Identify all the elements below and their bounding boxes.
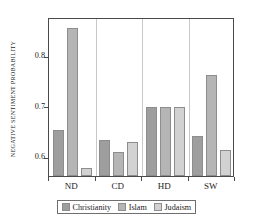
bar-sw-judaism [220, 150, 231, 176]
legend-entry-islam[interactable]: Islam [118, 203, 147, 212]
x-tick-mark [234, 177, 235, 181]
bar-sw-islam [206, 75, 217, 176]
gridline-vertical [142, 19, 143, 176]
bar-nd-judaism [81, 168, 92, 176]
gridline-vertical [189, 19, 190, 176]
bar-sw-christianity [192, 136, 203, 176]
legend-swatch-icon [154, 203, 162, 211]
y-tick-label: 0.6 [23, 152, 45, 161]
gridline-vertical [96, 19, 97, 176]
plot-area: 0.60.70.8 [48, 18, 234, 177]
y-tick-label: 0.7 [23, 102, 45, 111]
y-tick-label: 0.8 [23, 51, 45, 60]
bar-hd-judaism [174, 107, 185, 176]
legend-swatch-icon [62, 203, 70, 211]
bar-nd-islam [67, 28, 78, 176]
y-axis-title: Negative sentiment probability [10, 24, 16, 174]
legend-entry-judaism[interactable]: Judaism [154, 203, 191, 212]
bar-nd-christianity [53, 130, 64, 176]
legend-swatch-icon [118, 203, 126, 211]
legend-label: Judaism [164, 203, 191, 212]
legend-label: Christianity [73, 203, 112, 212]
bar-cd-christianity [99, 140, 110, 176]
chart-legend: ChristianityIslamJudaism [57, 200, 196, 214]
x-tick-label-nd: ND [48, 181, 95, 191]
legend-label: Islam [129, 203, 147, 212]
bar-hd-christianity [146, 107, 157, 176]
x-tick-label-hd: HD [141, 181, 188, 191]
bar-hd-islam [160, 107, 171, 176]
bar-cd-islam [113, 152, 124, 176]
bar-cd-judaism [127, 142, 138, 176]
x-tick-label-sw: SW [188, 181, 235, 191]
x-tick-label-cd: CD [95, 181, 142, 191]
bar-chart-figure: Negative sentiment probability 0.60.70.8… [0, 0, 255, 223]
legend-entry-christianity[interactable]: Christianity [62, 203, 111, 212]
